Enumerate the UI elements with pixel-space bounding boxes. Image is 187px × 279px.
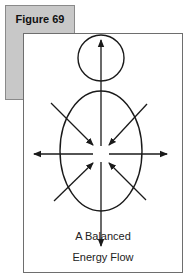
caption-line-2: Energy Flow: [23, 251, 183, 263]
caption-line-1: A Balanced: [23, 230, 183, 242]
